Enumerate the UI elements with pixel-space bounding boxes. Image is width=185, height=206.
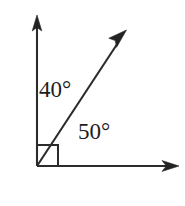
angle-label-40: 40° bbox=[39, 78, 71, 101]
diagonal-ray-line bbox=[37, 44, 118, 167]
angle-diagram-figure: 40° 50° bbox=[0, 0, 185, 206]
angle-diagram-canvas bbox=[0, 0, 185, 206]
diagonal-ray-arrowhead-icon bbox=[109, 30, 127, 47]
angle-label-50: 50° bbox=[78, 120, 110, 143]
